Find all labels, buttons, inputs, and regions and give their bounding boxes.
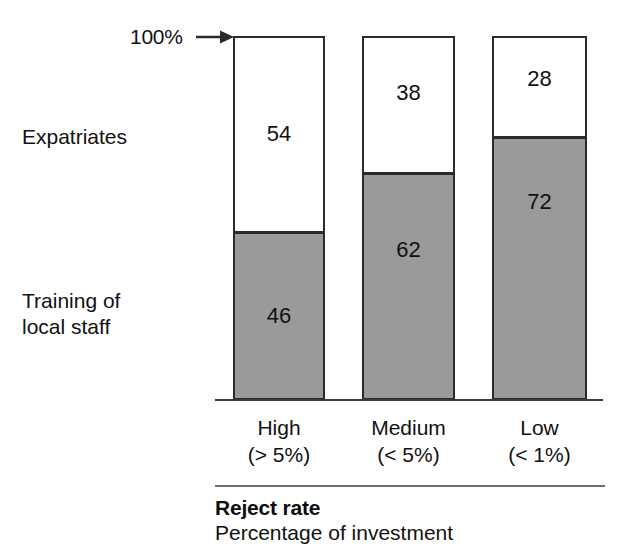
bar-segment-training-high: 46 [233,233,325,400]
bar-value-training-low: 72 [527,191,551,213]
caption-subtitle: Percentage of investment [215,521,453,545]
bar-column-low: 2872 [492,36,587,400]
bar-value-expatriates-low: 28 [527,68,551,90]
bar-value-training-medium: 62 [396,239,420,261]
bar-value-training-high: 46 [267,305,291,327]
x-axis-baseline [215,399,603,401]
category-label-high: High (> 5%) [211,414,347,468]
bar-segment-expatriates-low: 28 [492,36,587,138]
caption-title: Reject rate [215,496,320,520]
category-label-low: Low (< 1%) [470,414,609,468]
bar-segment-expatriates-high: 54 [233,36,325,233]
category-label-medium: Medium (< 5%) [340,414,477,468]
bar-segment-training-low: 72 [492,138,587,400]
bar-column-high: 5446 [233,36,325,400]
caption-rule [215,485,605,487]
bar-segment-training-medium: 62 [362,174,455,400]
bar-value-expatriates-medium: 38 [396,82,420,104]
bar-segment-expatriates-medium: 38 [362,36,455,174]
bar-column-medium: 3862 [362,36,455,400]
bar-value-expatriates-high: 54 [267,123,291,145]
